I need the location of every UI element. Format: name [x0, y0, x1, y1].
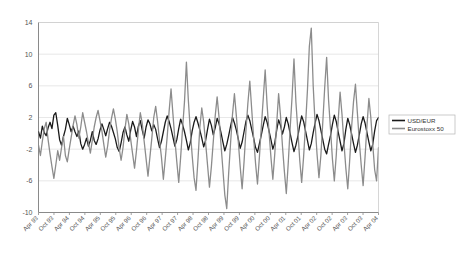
legend-label: Eurostoxx 50 — [408, 125, 445, 132]
chart-legend: USD/EUREurostoxx 50 — [389, 115, 455, 134]
y-tick-label: -2 — [26, 146, 32, 153]
y-tick-label: -10 — [22, 209, 32, 216]
legend-label: USD/EUR — [408, 117, 436, 124]
y-tick-label: 2 — [29, 114, 33, 121]
chart-container: -10-6-2261014 Apr 93Oct 93Apr 94Oct 94Ap… — [0, 0, 462, 272]
line-chart: -10-6-2261014 Apr 93Oct 93Apr 94Oct 94Ap… — [0, 0, 462, 272]
y-tick-label: 10 — [25, 51, 33, 58]
y-tick-label: 6 — [29, 82, 33, 89]
y-tick-label: 14 — [25, 19, 33, 26]
y-tick-label: -6 — [26, 177, 32, 184]
